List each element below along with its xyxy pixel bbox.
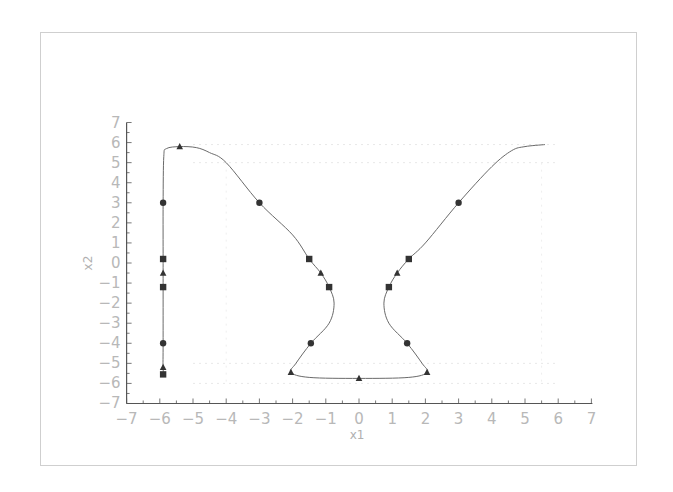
x-tick-label: 1 — [387, 410, 397, 428]
x-tick-labels: −7−6−5−4−3−2−101234567 — [116, 410, 597, 428]
y-tick-label: 1 — [111, 234, 121, 252]
x-tick-label: −6 — [149, 410, 171, 428]
x-tick-label: −5 — [182, 410, 204, 428]
x-axis-title: x1 — [350, 428, 365, 442]
plot-area: −7−6−5−4−3−2−101234567 −7−6−5−4−3−2−1012… — [0, 0, 673, 492]
x-tick-label: −2 — [282, 410, 304, 428]
x-tick-label: 0 — [354, 410, 364, 428]
x-tick-label: −3 — [248, 410, 270, 428]
triangle-marker — [160, 364, 167, 370]
circle-marker — [256, 200, 262, 206]
square-marker — [386, 284, 392, 290]
y-tick-label: −5 — [98, 354, 120, 372]
y-tick-label: 4 — [111, 174, 121, 192]
y-tick-label: 7 — [111, 114, 121, 132]
y-tick-label: 6 — [111, 134, 121, 152]
circle-marker — [308, 340, 314, 346]
x-tick-label: 4 — [487, 410, 497, 428]
y-tick-labels: −7−6−5−4−3−2−101234567 — [98, 114, 120, 413]
x-tick-label: 5 — [520, 410, 530, 428]
y-tick-label: 0 — [111, 254, 121, 272]
square-marker — [160, 284, 166, 290]
square-marker — [160, 256, 166, 262]
y-tick-label: −1 — [98, 274, 120, 292]
circle-marker — [404, 340, 410, 346]
trajectory-curve — [163, 145, 545, 379]
square-marker — [306, 256, 312, 262]
x-tick-label: −7 — [116, 410, 138, 428]
square-marker — [406, 256, 412, 262]
y-axis-title: x2 — [81, 256, 95, 271]
y-tick-label: 5 — [111, 154, 121, 172]
x-tick-label: −1 — [315, 410, 337, 428]
square-marker — [160, 371, 166, 377]
y-tick-label: −3 — [98, 314, 120, 332]
y-tick-label: 3 — [111, 194, 121, 212]
circle-marker — [160, 200, 166, 206]
circle-marker — [455, 200, 461, 206]
square-marker — [326, 284, 332, 290]
x-tick-label: 6 — [553, 410, 563, 428]
x-tick-label: 3 — [454, 410, 464, 428]
y-tick-label: −4 — [98, 334, 120, 352]
faint-gridlines — [193, 145, 558, 384]
data-markers — [160, 143, 462, 381]
y-tick-label: −6 — [98, 374, 120, 392]
triangle-marker — [288, 369, 295, 375]
axes — [127, 123, 593, 404]
triangle-marker — [424, 369, 431, 375]
x-tick-label: 2 — [421, 410, 431, 428]
y-tick-label: −7 — [98, 394, 120, 412]
y-tick-label: 2 — [111, 214, 121, 232]
triangle-marker — [160, 269, 167, 275]
circle-marker — [160, 340, 166, 346]
x-tick-label: 7 — [587, 410, 597, 428]
y-tick-label: −2 — [98, 294, 120, 312]
x-tick-label: −4 — [215, 410, 237, 428]
